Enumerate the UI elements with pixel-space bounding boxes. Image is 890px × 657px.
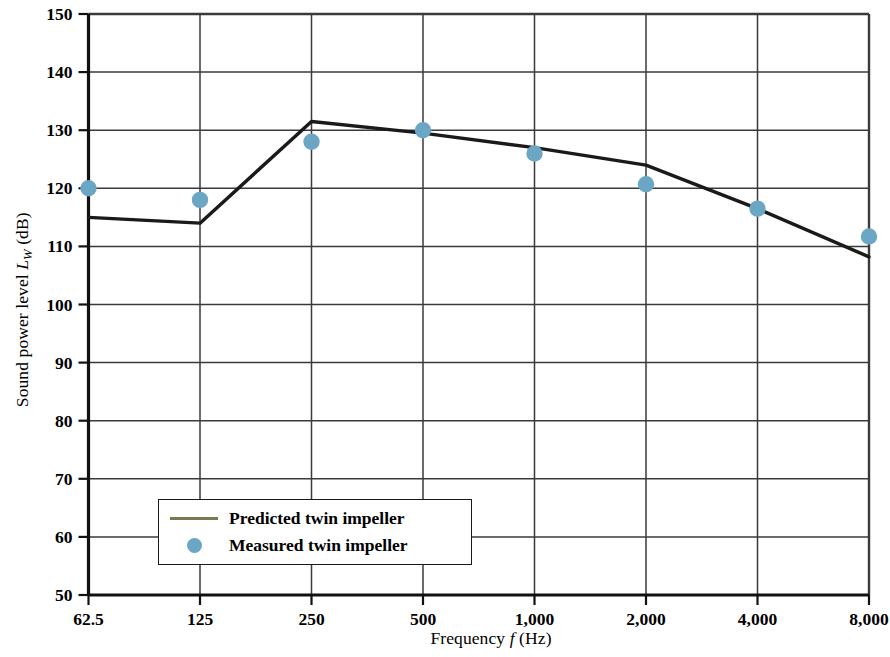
y-tick-label: 130 [15,120,73,141]
series-predicted-twin-impeller [89,121,870,256]
measured-data-point [303,134,319,150]
x-tick-label: 4,000 [713,609,803,630]
x-tick-label: 250 [267,609,357,630]
y-tick-label: 60 [15,526,73,547]
x-tick-label: 2,000 [601,609,691,630]
chart-figure: 5060708090100110120130140150 62.51252505… [0,0,890,657]
y-axis-title: Sound power level LW (dB) [12,140,36,480]
measured-data-point [415,122,431,138]
x-tick-label: 1,000 [490,609,580,630]
x-tick-label: 8,000 [824,609,890,630]
x-axis-title: Frequency f (Hz) [46,628,890,649]
y-tick-label: 150 [15,4,73,25]
legend-entry-predicted: Predicted twin impeller [159,504,471,533]
predicted-line-path [89,121,870,256]
measured-data-point [638,176,654,192]
chart-legend: Predicted twin impeller Measured twin im… [158,499,472,565]
y-tick-label: 50 [15,585,73,606]
legend-marker-swatch-icon [159,538,229,553]
legend-entry-measured: Measured twin impeller [159,531,471,560]
x-tick-label: 125 [155,609,245,630]
x-tick-label: 500 [378,609,468,630]
measured-data-point [861,228,877,244]
legend-label-predicted: Predicted twin impeller [229,508,405,529]
legend-label-measured: Measured twin impeller [229,535,408,556]
measured-data-point [749,200,765,216]
horizontal-gridlines [89,14,870,537]
legend-line-swatch-icon [159,517,229,520]
x-tick-label: 62.5 [44,609,134,630]
measured-data-point [192,192,208,208]
measured-data-point [526,145,542,161]
measured-data-point [80,180,96,196]
y-tick-label: 140 [15,62,73,83]
